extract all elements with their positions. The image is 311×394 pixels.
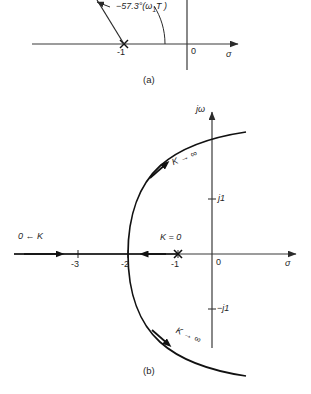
panel-b-tick-j1: j1	[218, 194, 225, 203]
panel-b-sigma-label: σ	[285, 259, 290, 268]
panel-a-caption: (a)	[143, 75, 155, 85]
panel-b-caption: (b)	[143, 366, 155, 376]
panel-b-jomega-label: jω	[196, 105, 205, 114]
panel-b-origin-label: 0	[216, 258, 221, 267]
panel-b-k-to-zero-label: 0 ← K	[18, 232, 43, 241]
panel-a-sigma-label: σ	[226, 50, 231, 59]
figure-root-locus: −57.3°(ω1T ) -1 0 σ (a) jω K → ∞ j1 0 ← …	[0, 0, 311, 394]
panel-a-angle-leader	[97, 2, 110, 7]
panel-b-tick-minus-two: -2	[121, 260, 129, 269]
panel-b-k-zero-label: K = 0	[160, 233, 181, 242]
panel-a-angle-tail: T )	[156, 1, 167, 11]
panel-b-tick-minus-one: -1	[171, 260, 179, 269]
panel-b-locus-lower	[128, 254, 246, 376]
panel-a-angle-value: −57.3°(ω	[116, 1, 152, 11]
panel-b-tick-minus-three: -3	[71, 260, 79, 269]
panel-a-angle-label: −57.3°(ω1T )	[116, 2, 167, 13]
panel-b	[14, 112, 296, 376]
panel-b-tick-minus-j1: −j1	[217, 304, 229, 313]
panel-a-origin-label: 0	[191, 47, 196, 56]
figure-canvas	[0, 0, 311, 394]
panel-b-locus-upper-arrow	[150, 164, 166, 178]
panel-a-tick-minus-one: -1	[117, 48, 125, 57]
